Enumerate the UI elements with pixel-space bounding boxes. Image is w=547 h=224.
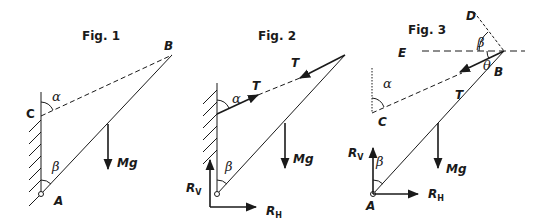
alpha-label: α	[383, 76, 392, 91]
point-b-label: B	[164, 39, 173, 53]
horizontal-reaction-label: RH	[266, 204, 282, 220]
vertical-reaction-label: RV	[186, 181, 202, 197]
point-a-label: A	[365, 199, 375, 213]
rod-ab	[41, 55, 172, 194]
tension-label-lower: T	[252, 79, 261, 93]
point-c-label: C	[378, 115, 387, 129]
rod-ab	[217, 55, 345, 194]
weight-label: Mg	[117, 156, 138, 170]
beta-arc-bottom	[373, 180, 383, 184]
hinge-pin	[39, 192, 44, 197]
point-b-label: B	[494, 65, 503, 79]
mechanics-diagram: Fig. 1 B C α β A Mg Fig. 2	[0, 0, 547, 224]
rope-dashed	[258, 78, 300, 95]
tension-arrow-end	[300, 55, 345, 78]
point-d-label: D	[466, 9, 476, 23]
beta-arc	[217, 180, 227, 184]
hinge-pin	[215, 192, 220, 197]
beta-arc	[41, 180, 51, 184]
beta-label: β	[51, 159, 60, 174]
figure-1: Fig. 1 B C α β A Mg	[26, 29, 173, 208]
point-c-label: C	[26, 107, 35, 121]
vertical-reaction-label: RV	[348, 146, 364, 162]
point-a-label: A	[53, 194, 63, 208]
beta-label-top: β	[476, 35, 485, 50]
figure-3: Fig. 3 D β E θ B T α C β	[348, 9, 525, 213]
point-e-label: E	[398, 46, 407, 60]
rope-cb	[41, 55, 172, 116]
wall-hatching	[203, 90, 217, 164]
alpha-label: α	[232, 91, 241, 106]
beta-label-bottom: β	[375, 154, 384, 169]
alpha-arc	[372, 98, 384, 107]
theta-label: θ	[483, 58, 491, 73]
horizontal-reaction-label: RH	[428, 187, 444, 203]
tension-label-upper: T	[291, 56, 300, 70]
alpha-arc	[217, 100, 229, 108]
weight-label: Mg	[293, 152, 314, 166]
figure-3-title: Fig. 3	[408, 23, 446, 37]
tension-label: T	[455, 88, 464, 102]
alpha-label: α	[52, 89, 61, 104]
beta-label: β	[224, 159, 233, 174]
figure-1-title: Fig. 1	[82, 29, 120, 43]
figure-2-title: Fig. 2	[258, 29, 296, 43]
weight-label: Mg	[446, 162, 467, 176]
figure-2: Fig. 2 α T T β Mg RV R	[186, 29, 345, 220]
